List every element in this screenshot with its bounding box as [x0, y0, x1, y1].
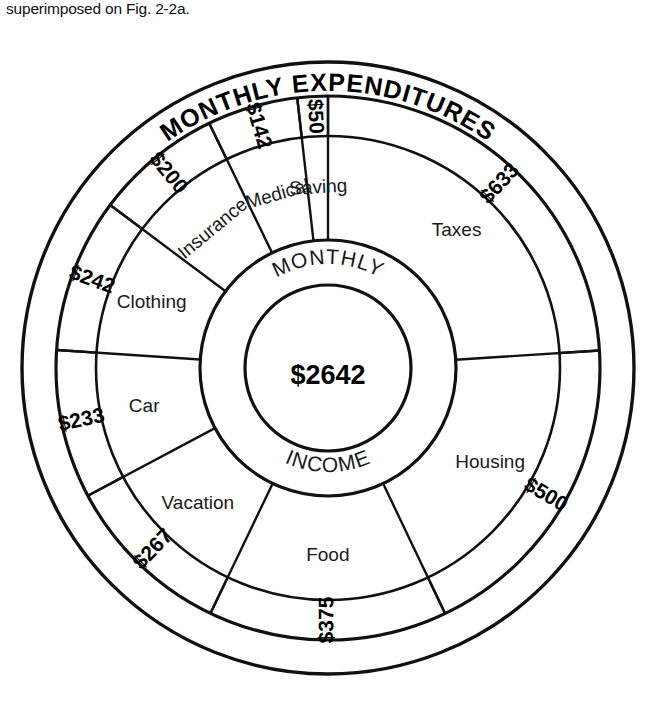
slice-category-label: Taxes [432, 219, 482, 240]
slice-amount-label: $375 [314, 596, 337, 643]
slice-category-label: Car [129, 395, 160, 416]
slice-category-label: Clothing [117, 291, 187, 312]
monthly-expenditures-wheel-chart: TaxesHousingFoodVacationCarClothingInsur… [0, 0, 659, 715]
monthly-income-total: $2642 [290, 360, 365, 390]
core-hub-group: MONTHLY INCOME $2642 [200, 240, 456, 496]
slice-amount-label: $50 [304, 98, 329, 134]
slice-category-label: Housing [455, 451, 525, 472]
slice-category-label: Vacation [162, 492, 235, 513]
slice-category-label: Saving [289, 175, 348, 199]
slice-category-label: Food [306, 544, 349, 565]
